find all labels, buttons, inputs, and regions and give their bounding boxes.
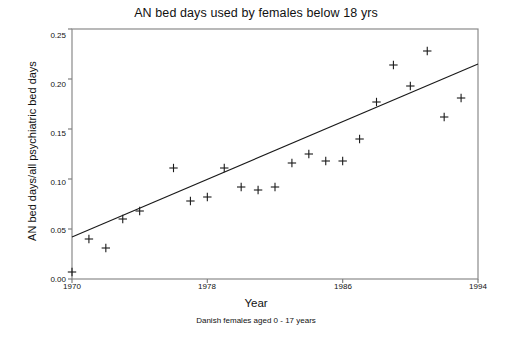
plus-marker <box>457 94 465 102</box>
plus-marker <box>237 183 245 191</box>
plus-marker <box>440 113 448 121</box>
plus-marker <box>102 244 110 252</box>
plus-marker <box>203 193 211 201</box>
data-point-markers <box>68 47 465 276</box>
plus-marker <box>85 235 93 243</box>
plus-marker <box>355 135 363 143</box>
x-axis-ticks <box>72 279 478 283</box>
plus-marker <box>372 98 380 106</box>
plus-marker <box>271 183 279 191</box>
plus-marker <box>423 47 431 55</box>
chart-figure: AN bed days used by females below 18 yrs… <box>0 0 512 338</box>
plus-marker <box>186 197 194 205</box>
plus-marker <box>68 268 76 276</box>
plus-marker <box>254 186 262 194</box>
plus-marker <box>322 157 330 165</box>
plus-marker <box>305 150 313 158</box>
regression-line <box>72 64 478 237</box>
plot-area <box>0 0 512 338</box>
plus-marker <box>389 61 397 69</box>
plus-marker <box>406 82 414 90</box>
plus-marker <box>288 159 296 167</box>
plus-marker <box>338 157 346 165</box>
plus-marker <box>135 207 143 215</box>
plus-marker <box>169 164 177 172</box>
plot-frame <box>72 29 478 279</box>
